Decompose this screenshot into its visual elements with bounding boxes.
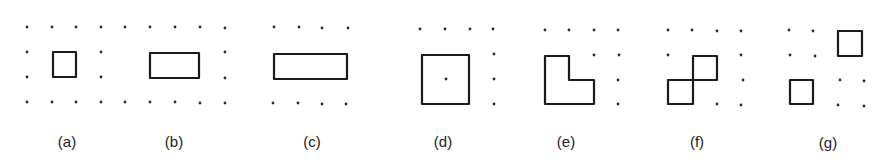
grid-dot (740, 104, 743, 107)
grid-dot (298, 26, 301, 29)
grid-dot (26, 51, 29, 54)
grid-dot (568, 29, 571, 32)
grid-dot (100, 26, 103, 29)
grid-dot (224, 51, 227, 54)
grid-dot (345, 103, 348, 106)
grid-dot (469, 28, 472, 31)
grid-dot (839, 79, 842, 82)
grid-dot (224, 102, 227, 105)
panel-f: (f) (667, 29, 745, 150)
grid-dot (149, 101, 152, 104)
panel-b: (b) (124, 26, 227, 150)
grid-dot (617, 103, 620, 106)
panel-g: (g) (788, 29, 866, 151)
grid-dot (740, 54, 743, 57)
grid-dot (297, 102, 300, 105)
grid-dot (789, 54, 792, 57)
polyomino-outline (668, 80, 693, 104)
grid-dot (75, 26, 78, 29)
figure-panels: (a)(b)(c)(d)(e)(f)(g) (26, 26, 866, 151)
grid-dot (863, 80, 866, 83)
grid-dot (100, 101, 103, 104)
grid-dot (863, 105, 866, 108)
grid-dot (273, 26, 276, 29)
grid-dot (493, 78, 496, 81)
grid-dot (124, 101, 127, 104)
panel-label: (a) (58, 133, 76, 150)
grid-dot (544, 29, 547, 32)
grid-dot (75, 101, 78, 104)
grid-dot (716, 103, 719, 106)
panel-label: (g) (819, 134, 837, 151)
grid-dot (321, 27, 324, 30)
grid-dot (51, 101, 54, 104)
grid-dot (419, 28, 422, 31)
grid-dot (321, 103, 324, 106)
polyomino-outline (150, 53, 199, 78)
grid-dot (837, 104, 840, 107)
polyomino-outline (693, 56, 717, 80)
grid-dot (224, 77, 227, 80)
grid-dot (493, 103, 496, 106)
grid-dot (347, 27, 350, 30)
grid-dot (617, 29, 620, 32)
grid-dot (272, 102, 275, 105)
grid-dot (788, 29, 791, 32)
grid-dot (593, 54, 596, 57)
grid-dot (593, 29, 596, 32)
grid-dot (174, 101, 177, 104)
polyomino-outline (274, 54, 347, 79)
grid-dot (691, 29, 694, 32)
grid-dot (124, 26, 127, 29)
polyomino-outline (838, 31, 862, 56)
grid-dot (174, 26, 177, 29)
panel-label: (e) (557, 133, 575, 150)
grid-dot (742, 79, 745, 82)
grid-dot (445, 78, 448, 81)
grid-dot (100, 51, 103, 54)
polyomino-dot-grid-figure: (a)(b)(c)(d)(e)(f)(g) (0, 0, 891, 165)
panel-label: (c) (303, 133, 321, 150)
grid-dot (812, 30, 815, 33)
grid-dot (26, 26, 29, 29)
grid-dot (26, 101, 29, 104)
panel-e: (e) (544, 29, 621, 150)
grid-dot (814, 55, 817, 58)
grid-dot (618, 54, 621, 57)
panel-c: (c) (272, 26, 350, 150)
grid-dot (51, 26, 54, 29)
grid-dot (667, 29, 670, 32)
grid-dot (199, 102, 202, 105)
panel-d: (d) (419, 28, 496, 150)
panel-a: (a) (26, 26, 103, 150)
grid-dot (100, 76, 103, 79)
grid-dot (740, 30, 743, 33)
grid-dot (492, 28, 495, 31)
grid-dot (667, 54, 670, 57)
grid-dot (149, 26, 152, 29)
grid-dot (199, 26, 202, 29)
polyomino-outline (545, 56, 594, 104)
grid-dot (224, 27, 227, 30)
grid-dot (444, 28, 447, 31)
panel-label: (f) (690, 133, 704, 150)
polyomino-outline (53, 52, 76, 77)
panel-label: (d) (434, 133, 452, 150)
grid-dot (617, 79, 620, 82)
grid-dot (493, 53, 496, 56)
grid-dot (716, 30, 719, 33)
polyomino-outline (790, 80, 813, 104)
panel-label: (b) (165, 133, 183, 150)
grid-dot (26, 76, 29, 79)
